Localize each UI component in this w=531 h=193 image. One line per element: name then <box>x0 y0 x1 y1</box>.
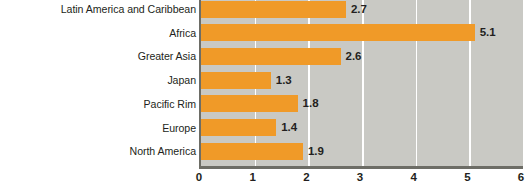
x-tick-label: 1 <box>249 171 255 183</box>
chart-screenshot: r of usehold ns web r w.un.org/ 7/2000. … <box>0 0 531 193</box>
bar-value-label: 1.3 <box>276 72 292 89</box>
x-tick-label: 5 <box>464 171 470 183</box>
bar-value-label: 1.4 <box>281 119 297 136</box>
x-tick-label: 0 <box>196 171 202 183</box>
x-tick-label: 3 <box>357 171 363 183</box>
bar <box>201 143 303 160</box>
category-label: Pacific Rim <box>40 98 196 110</box>
category-label: Japan <box>40 74 196 86</box>
x-axis-tick-labels: 0123456 <box>199 171 521 191</box>
bar <box>201 48 341 65</box>
bar <box>201 95 298 112</box>
category-label: Europe <box>40 122 196 134</box>
bar <box>201 119 276 136</box>
bar-value-label: 1.9 <box>308 143 324 160</box>
category-label: Africa <box>40 27 196 39</box>
bar <box>201 1 346 18</box>
category-label: Greater Asia <box>40 50 196 62</box>
bar-value-label: 2.7 <box>351 1 367 18</box>
x-tick-label: 2 <box>303 171 309 183</box>
x-tick-label: 6 <box>518 171 524 183</box>
category-label: Latin America and Caribbean <box>40 3 196 15</box>
bar-value-label: 5.1 <box>480 24 496 41</box>
bar <box>201 24 475 41</box>
x-tick-label: 4 <box>410 171 416 183</box>
bar <box>201 72 271 89</box>
gridline <box>523 0 525 166</box>
category-axis-labels: Latin America and CaribbeanAfricaGreater… <box>40 0 196 166</box>
bar-value-label: 2.6 <box>346 48 362 65</box>
x-axis-line <box>199 166 523 169</box>
horizontal-bar-chart: Latin America and CaribbeanAfricaGreater… <box>0 0 531 193</box>
bar-value-label: 1.8 <box>303 95 319 112</box>
category-label: North America <box>40 145 196 157</box>
plot-area: 2.75.12.61.31.81.41.9 <box>199 0 523 166</box>
